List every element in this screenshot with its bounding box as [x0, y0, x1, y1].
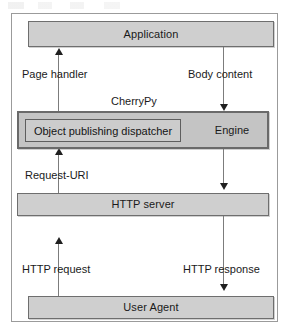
diagram-canvas: Application Object publishing dispatcher… — [0, 0, 288, 335]
arrowhead-http-request — [55, 237, 63, 244]
arrowhead-request-uri — [55, 148, 63, 155]
arrowhead-http-response — [220, 284, 228, 291]
edge-label-http-response: HTTP response — [183, 264, 260, 275]
arrowhead-page-handler — [55, 48, 63, 55]
node-application-label: Application — [124, 29, 179, 40]
diagram-frame: Application Object publishing dispatcher… — [11, 13, 278, 322]
node-dispatcher-label: Object publishing dispatcher — [34, 125, 172, 137]
node-engine-label: Engine — [197, 113, 267, 147]
clipped-caption-artifact — [8, 2, 158, 9]
node-object-publishing-dispatcher[interactable]: Object publishing dispatcher — [25, 119, 181, 142]
connector-page-handler — [58, 54, 59, 118]
node-http-server-label: HTTP server — [111, 199, 174, 210]
edge-label-request-uri: Request-URI — [25, 170, 89, 181]
node-user-agent-label: User Agent — [123, 302, 178, 313]
arrowhead-body-content — [220, 104, 228, 111]
edge-label-body-content: Body content — [188, 69, 252, 80]
node-user-agent[interactable]: User Agent — [28, 296, 274, 319]
arrowhead-engine-output — [220, 183, 228, 190]
edge-label-http-request: HTTP request — [22, 264, 90, 275]
node-application[interactable]: Application — [28, 21, 274, 47]
node-http-server[interactable]: HTTP server — [17, 193, 269, 216]
node-cherrypy-title-label: CherryPy — [111, 96, 157, 107]
node-cherrypy-band[interactable]: Object publishing dispatcher Engine — [17, 111, 269, 149]
connector-engine-output — [223, 149, 224, 183]
edge-label-page-handler: Page handler — [22, 69, 87, 80]
